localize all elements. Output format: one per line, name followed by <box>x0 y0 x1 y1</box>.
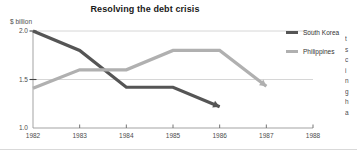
x-tick-label: 1984 <box>111 132 141 139</box>
x-tick-label: 1982 <box>18 132 48 139</box>
data-series-layer <box>33 31 266 107</box>
x-tick-label: 1985 <box>158 132 188 139</box>
plot-area <box>0 0 357 153</box>
y-tick-label: 1.5 <box>8 76 28 83</box>
y-tick-label: 1.0 <box>8 124 28 131</box>
x-tick-label: 1986 <box>205 132 235 139</box>
side-text-line: n <box>345 76 357 87</box>
legend-color-swatch <box>286 50 298 53</box>
legend-label: South Korea <box>303 29 339 36</box>
legend-label: Philippines <box>303 48 334 55</box>
side-text-line: g <box>345 87 357 98</box>
y-tick-label: 2.0 <box>8 27 28 34</box>
bottom-divider <box>0 149 357 150</box>
side-text-line: c <box>345 55 357 66</box>
side-text-line: h <box>345 97 357 108</box>
x-tick-label: 1987 <box>251 132 281 139</box>
legend-color-swatch <box>286 31 298 34</box>
side-text-line: a <box>345 108 357 119</box>
x-tick-label: 1983 <box>65 132 95 139</box>
chart-figure: Resolving the debt crisis $ billion 1.01… <box>0 0 357 153</box>
side-text-line: t <box>345 34 357 45</box>
side-text-line: s <box>345 45 357 56</box>
side-text-line: i <box>345 66 357 77</box>
x-tick-label: 1988 <box>298 132 328 139</box>
side-text-column: tscingha <box>345 34 357 144</box>
